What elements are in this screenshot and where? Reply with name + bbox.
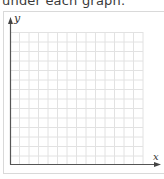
y-axis-label: y	[14, 12, 20, 25]
x-axis-label: x	[153, 151, 159, 162]
grid-lines	[10, 32, 143, 164]
x-axis-arrow-icon	[154, 162, 161, 167]
coordinate-grid	[0, 0, 164, 179]
y-axis-arrow-icon	[8, 17, 13, 24]
